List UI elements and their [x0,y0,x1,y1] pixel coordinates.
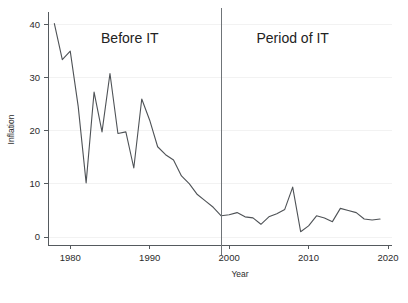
y-tick-label: 20 [29,125,40,136]
x-tick-label: 2020 [377,252,398,263]
grid-lines [48,25,392,237]
x-axis-ticks: 19801990200020102020 [60,245,399,263]
x-axis-title: Year [231,269,248,279]
x-tick-label: 1980 [60,252,81,263]
annotation-period-of-it: Period of IT [257,30,330,46]
y-axis-title: Inflation [6,114,16,144]
inflation-line-chart: 010203040 19801990200020102020 Inflation… [0,0,408,303]
chart-figure: 010203040 19801990200020102020 Inflation… [0,0,408,303]
y-tick-label: 10 [29,178,40,189]
y-tick-label: 30 [29,72,40,83]
y-tick-label: 0 [35,231,40,242]
y-tick-label: 40 [29,19,40,30]
x-tick-label: 2010 [298,252,319,263]
x-tick-label: 1990 [139,252,160,263]
annotation-before-it: Before IT [101,30,159,46]
inflation-series-line [54,24,380,232]
y-axis-ticks: 010203040 [29,19,48,242]
